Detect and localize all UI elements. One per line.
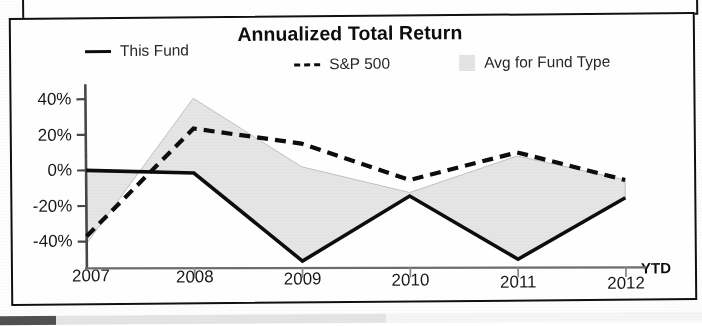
- avg-fund-type-band: [85, 95, 625, 263]
- avg-fund-type-area: [85, 95, 625, 263]
- chart-panel: Annualized Total Return This Fund S&P 50…: [0, 0, 702, 326]
- chart-plot-area: [0, 0, 702, 326]
- x-axis-line: [85, 263, 646, 272]
